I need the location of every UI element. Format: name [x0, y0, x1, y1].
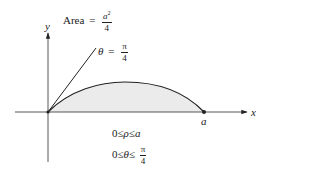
angle-var: θ — [98, 45, 103, 57]
theta-num: π — [140, 145, 147, 156]
angle-num: π — [121, 42, 128, 53]
angle-label: θ = π 4 — [98, 42, 128, 63]
theta-den: 4 — [141, 156, 146, 166]
angle-equals: = — [108, 45, 114, 57]
rho-high: a — [135, 127, 141, 139]
y-axis-label: y — [45, 21, 50, 32]
area-den: 4 — [105, 23, 110, 33]
area-prefix: Area — [63, 14, 84, 26]
angle-fraction: π 4 — [121, 42, 128, 63]
x-axis-label: x — [251, 107, 256, 118]
area-equals: = — [89, 14, 95, 26]
point-a-label: a — [201, 116, 207, 127]
point-a — [202, 110, 206, 114]
area-label: Area = a2 4 — [63, 10, 112, 33]
shaded-region — [48, 82, 204, 112]
rho-constraint: 0≤ρ≤a — [112, 128, 140, 139]
origin-point — [46, 110, 49, 113]
theta-le2: ≤ — [129, 148, 135, 160]
theta-constraint: 0≤θ≤ π 4 — [112, 145, 146, 166]
angle-den: 4 — [122, 53, 127, 63]
theta-fraction: π 4 — [140, 145, 147, 166]
area-num-exp: 2 — [108, 10, 111, 16]
area-fraction: a2 4 — [102, 10, 112, 33]
